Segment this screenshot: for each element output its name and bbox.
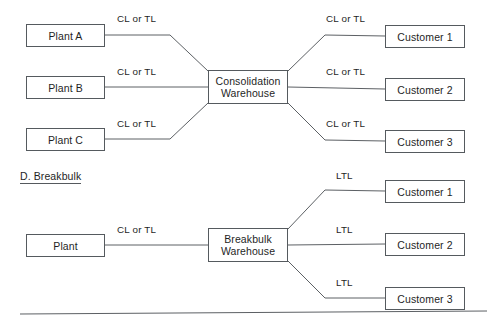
node-plant-c-label: Plant C bbox=[48, 134, 83, 146]
edge-label-breakbulk-customer-1: LTL bbox=[336, 170, 353, 181]
node-consolidation-customer-3-label: Customer 3 bbox=[397, 136, 452, 148]
node-consolidation-customer-2-label: Customer 2 bbox=[397, 84, 452, 96]
edge-label-customer-1: CL or TL bbox=[326, 13, 365, 24]
diagram-canvas: Plant A Plant B Plant C Consolidation Wa… bbox=[0, 0, 493, 328]
node-plant-a: Plant A bbox=[26, 24, 105, 47]
section-heading-breakbulk: D. Breakbulk bbox=[20, 170, 81, 184]
edge-label-plant-a: CL or TL bbox=[117, 13, 156, 24]
node-breakbulk-customer-1: Customer 1 bbox=[385, 180, 465, 203]
node-plant: Plant bbox=[26, 234, 105, 257]
node-breakbulk-customer-3-label: Customer 3 bbox=[397, 293, 452, 305]
edge-breakbulk-to-customer-2 bbox=[288, 244, 385, 245]
node-consolidation-customer-2: Customer 2 bbox=[385, 78, 465, 101]
node-breakbulk-customer-1-label: Customer 1 bbox=[397, 186, 452, 198]
connector-lines bbox=[0, 0, 493, 328]
node-breakbulk-warehouse: Breakbulk Warehouse bbox=[208, 228, 288, 262]
node-plant-a-label: Plant A bbox=[49, 30, 83, 42]
node-plant-c: Plant C bbox=[26, 128, 105, 151]
edge-label-plant: CL or TL bbox=[117, 224, 156, 235]
node-plant-b-label: Plant B bbox=[48, 82, 83, 94]
edge-label-breakbulk-customer-3: LTL bbox=[336, 277, 353, 288]
node-consolidation-customer-1-label: Customer 1 bbox=[397, 31, 452, 43]
edge-label-customer-2: CL or TL bbox=[326, 66, 365, 77]
edge-label-plant-c: CL or TL bbox=[117, 118, 156, 129]
edge-hub-to-customer-2 bbox=[288, 87, 385, 89]
node-plant-b: Plant B bbox=[26, 76, 105, 99]
edge-label-customer-3: CL or TL bbox=[326, 118, 365, 129]
edge-label-plant-b: CL or TL bbox=[117, 66, 156, 77]
footer-rule bbox=[20, 311, 487, 314]
edge-label-breakbulk-customer-2: LTL bbox=[336, 224, 353, 235]
node-consolidation-warehouse: Consolidation Warehouse bbox=[208, 70, 288, 104]
node-breakbulk-customer-2-label: Customer 2 bbox=[397, 239, 452, 251]
node-consolidation-warehouse-label: Consolidation Warehouse bbox=[216, 75, 281, 99]
node-consolidation-customer-3: Customer 3 bbox=[385, 130, 465, 153]
node-breakbulk-customer-2: Customer 2 bbox=[385, 233, 465, 256]
node-consolidation-customer-1: Customer 1 bbox=[385, 25, 465, 48]
node-plant-label: Plant bbox=[53, 240, 77, 252]
node-breakbulk-customer-3: Customer 3 bbox=[385, 287, 465, 310]
node-breakbulk-warehouse-label: Breakbulk Warehouse bbox=[221, 233, 275, 257]
